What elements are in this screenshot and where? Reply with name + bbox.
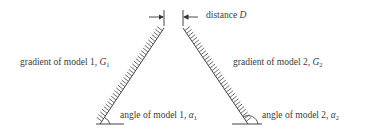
gradient-2-label: gradient of model 2, G2 [233,57,323,68]
angle-1-label: angle of model 1, α1 [120,110,197,121]
distance-label: distance D [206,10,246,20]
angle-2-label: angle of model 2, α2 [262,110,339,121]
gradient-1-label: gradient of model 1, G1 [20,57,110,68]
distance-marker [149,10,198,26]
angle-1-arc-icon [105,118,111,125]
